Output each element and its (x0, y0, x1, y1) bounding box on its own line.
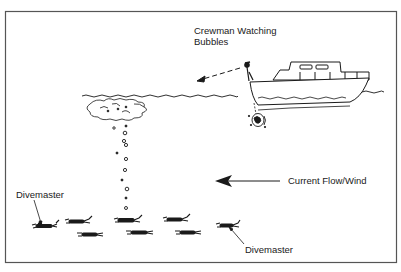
diver-divemaster-right (216, 220, 240, 227)
bubble-trail (113, 125, 129, 210)
diver (114, 215, 142, 222)
crewman-label-line2: Bubbles (194, 36, 228, 47)
motor-boat-icon (250, 62, 369, 114)
sight-line-arrow (197, 68, 240, 82)
diagram-canvas: Crewman Watching Bubbles Current Flow/Wi… (0, 0, 401, 272)
diver-divemaster-left (32, 220, 59, 228)
surface-bubbles-icon (87, 99, 147, 121)
diver (163, 214, 190, 221)
diver (65, 216, 92, 223)
divers-group (32, 214, 240, 236)
diver (126, 231, 153, 234)
arrow-left-icon (215, 175, 280, 187)
crewman-label-line1: Crewman Watching (194, 25, 277, 36)
current-flow-label: Current Flow/Wind (288, 175, 367, 186)
divemaster-right-label: Divemaster (245, 244, 293, 255)
crewman-figure (245, 62, 253, 81)
divemaster-left-label: Divemaster (16, 189, 64, 200)
diver (175, 231, 201, 234)
diagram-border (6, 12, 397, 263)
diver (77, 233, 103, 236)
propeller-icon (248, 114, 265, 128)
